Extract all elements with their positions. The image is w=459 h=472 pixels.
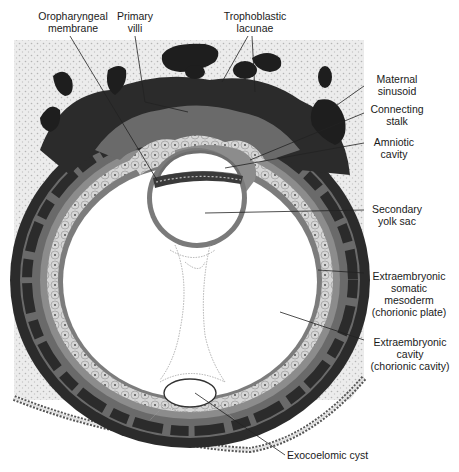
embryo-complex — [147, 148, 247, 248]
label-line: villi — [110, 22, 160, 34]
label-maternal-sinusoid: Maternal sinusoid — [364, 73, 430, 97]
diagram-canvas — [0, 0, 459, 472]
label-line: (chorionic cavity) — [364, 360, 456, 372]
label-connecting-stalk: Connecting stalk — [364, 103, 430, 127]
label-line: sinusoid — [364, 85, 430, 97]
label-line: yolk sac — [364, 215, 430, 227]
label-line: lacunae — [210, 22, 300, 34]
label-line: Extraembryonic — [364, 336, 456, 348]
label-extraembryonic-somatic-mesoderm: Extraembryonic somatic mesoderm (chorion… — [364, 270, 454, 318]
label-secondary-yolk-sac: Secondary yolk sac — [364, 203, 430, 227]
label-amniotic-cavity: Amniotic cavity — [364, 136, 424, 160]
label-line: Trophoblastic — [210, 10, 300, 22]
label-line: somatic — [364, 282, 454, 294]
label-primary-villi: Primary villi — [110, 10, 160, 34]
label-exocoelomic-cyst: Exocoelomic cyst — [287, 449, 387, 461]
label-line: Secondary — [364, 203, 430, 215]
label-trophoblastic-lacunae: Trophoblastic lacunae — [210, 10, 300, 34]
label-line: cavity — [364, 148, 424, 160]
label-line: (chorionic plate) — [364, 306, 454, 318]
exocoelomic-cyst — [164, 379, 216, 407]
label-line: mesoderm — [364, 294, 454, 306]
label-line: Connecting — [364, 103, 430, 115]
label-line: Amniotic — [364, 136, 424, 148]
label-line: Extraembryonic — [364, 270, 454, 282]
label-line: Maternal — [364, 73, 430, 85]
label-line: stalk — [364, 115, 430, 127]
label-extraembryonic-cavity: Extraembryonic cavity (chorionic cavity) — [364, 336, 456, 372]
label-line: cavity — [364, 348, 456, 360]
label-line: Exocoelomic cyst — [287, 449, 387, 461]
embryo-diagram: Oropharyngeal membrane Primary villi Tro… — [0, 0, 459, 472]
label-line: Primary — [110, 10, 160, 22]
